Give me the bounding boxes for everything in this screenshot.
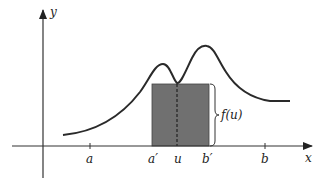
y-axis-label: y: [49, 5, 57, 19]
tick-label-b: b: [261, 152, 269, 166]
height-brace: [210, 84, 219, 146]
height-label-fu: f(u): [220, 108, 243, 122]
tick-label-b-prime: b′: [202, 152, 213, 166]
tick-label-a-prime: a′: [148, 152, 158, 166]
x-axis-label: x: [305, 151, 312, 165]
shaded-rectangle: [152, 84, 209, 146]
integral-diagram: y x a a′ u b′ b f(u): [0, 0, 324, 186]
tick-label-u: u: [174, 152, 182, 166]
tick-label-a: a: [86, 152, 93, 166]
